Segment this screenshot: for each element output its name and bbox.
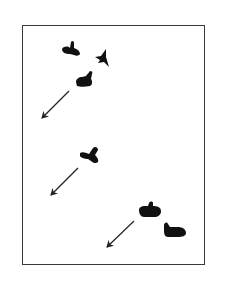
figure-artwork xyxy=(0,0,225,295)
blob-cross xyxy=(80,147,98,163)
blob-boot xyxy=(76,71,92,87)
arrow-middle xyxy=(51,168,78,195)
arrow-bottom xyxy=(107,221,134,247)
group-bottom xyxy=(107,202,186,248)
blob-star xyxy=(95,49,109,67)
blob-hand xyxy=(139,202,161,218)
group-top xyxy=(42,41,109,118)
arrow-top xyxy=(42,91,69,118)
blob-foot xyxy=(164,223,186,237)
blob-bird-left xyxy=(62,41,80,56)
group-middle xyxy=(51,147,98,195)
